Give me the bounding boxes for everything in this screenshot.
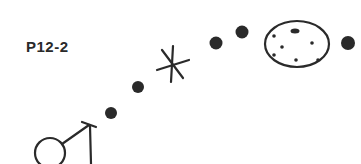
male-symbol-icon xyxy=(35,122,96,164)
dot-icon xyxy=(132,81,144,93)
dot-icon xyxy=(210,37,223,50)
asterisk-icon xyxy=(157,46,189,82)
dot-icon xyxy=(341,36,355,50)
speckled-ellipse-icon xyxy=(265,21,329,67)
dot-icon xyxy=(105,107,117,119)
symbol-sequence xyxy=(0,0,361,164)
dot-icon xyxy=(236,26,249,39)
